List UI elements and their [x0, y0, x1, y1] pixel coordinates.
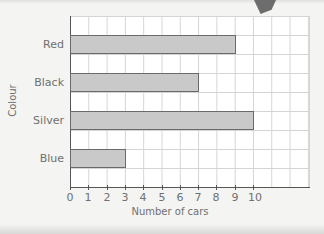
bar-blue [70, 149, 126, 168]
x-axis [70, 187, 310, 188]
x-tick-label: 2 [100, 191, 114, 204]
x-tick [198, 185, 199, 190]
x-tick-label: 4 [136, 191, 150, 204]
y-axis-title: Colour [7, 84, 18, 116]
decorative-corner-shape [254, 0, 276, 14]
x-tick-label: 9 [228, 191, 242, 204]
x-tick-label: 7 [191, 191, 205, 204]
x-tick [180, 185, 181, 190]
x-tick-label: 5 [155, 191, 169, 204]
x-tick-label: 8 [209, 191, 223, 204]
x-tick [143, 185, 144, 190]
x-tick-label: 0 [63, 191, 77, 204]
x-tick [216, 185, 217, 190]
bottom-paper-edge [0, 224, 324, 234]
x-axis-title: Number of cars [120, 206, 220, 217]
x-tick [107, 185, 108, 190]
bar-silver [70, 111, 254, 130]
x-tick [235, 185, 236, 190]
bar-red [70, 35, 236, 54]
category-label-red: Red [4, 35, 64, 54]
x-tick [88, 185, 89, 190]
category-label-blue: Blue [4, 149, 64, 168]
x-tick [253, 185, 254, 190]
x-tick-label: 6 [173, 191, 187, 204]
bar-black [70, 73, 199, 92]
x-tick [70, 185, 71, 190]
x-tick [125, 185, 126, 190]
x-tick-label: 3 [118, 191, 132, 204]
x-tick [162, 185, 163, 190]
x-tick-label: 10 [248, 191, 262, 204]
x-tick-label: 1 [81, 191, 95, 204]
